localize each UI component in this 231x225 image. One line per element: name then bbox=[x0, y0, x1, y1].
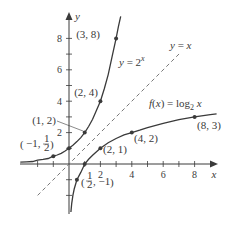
svg-text:, −1: , −1 bbox=[93, 175, 110, 187]
point-2-4-label: (2, 4) bbox=[74, 86, 98, 99]
point-3-8 bbox=[114, 36, 118, 40]
x-axis-arrow-icon bbox=[210, 161, 218, 168]
svg-text:(: ( bbox=[20, 138, 24, 151]
x-axis-label: x bbox=[211, 168, 217, 180]
y-tick-label-2: 2 bbox=[57, 127, 62, 138]
exponential-curve-label: y = 2x bbox=[118, 54, 145, 68]
identity-line-label: y = x bbox=[169, 39, 192, 51]
x-tick-label-6: 6 bbox=[161, 169, 166, 180]
point-2-1-label: (2, 1) bbox=[103, 143, 127, 156]
point-m1-half-label: ( −1, 1 2 ) bbox=[20, 132, 54, 153]
logarithm-points bbox=[75, 115, 197, 182]
svg-text:−1,: −1, bbox=[26, 137, 41, 149]
point-1-2 bbox=[83, 131, 87, 135]
x-tick-label-8: 8 bbox=[192, 169, 197, 180]
point-1-2-label: (1, 2) bbox=[32, 114, 56, 127]
x-tick-label-4: 4 bbox=[129, 169, 134, 180]
x-axis: 2 4 6 8 x bbox=[20, 161, 218, 181]
point-8-3-label: (8, 3) bbox=[197, 119, 221, 132]
svg-text:2: 2 bbox=[87, 178, 93, 190]
logarithm-curve-label: f(x) = log2 x bbox=[149, 97, 202, 112]
y-axis-label: y bbox=[74, 10, 80, 22]
function-graph: 2 4 6 8 x 2 4 6 8 bbox=[0, 0, 231, 225]
y-axis: 2 4 6 8 y bbox=[57, 10, 80, 214]
y-axis-arrow-icon bbox=[66, 12, 73, 20]
point-3-8-label: (3, 8) bbox=[76, 28, 100, 41]
svg-text:): ) bbox=[110, 176, 114, 189]
y-tick-label-6: 6 bbox=[57, 64, 62, 75]
svg-text:): ) bbox=[50, 138, 54, 151]
point-4-2-label: (4, 2) bbox=[134, 132, 158, 145]
point-half-m1 bbox=[75, 178, 79, 182]
point-m1-half bbox=[51, 154, 55, 158]
point-0-1 bbox=[67, 146, 71, 150]
point-1-0 bbox=[83, 162, 87, 166]
svg-text:(: ( bbox=[81, 176, 85, 189]
point-2-4 bbox=[98, 99, 102, 103]
y-tick-label-4: 4 bbox=[57, 96, 62, 107]
point-8-3 bbox=[193, 115, 197, 119]
svg-text:2: 2 bbox=[44, 141, 50, 153]
y-tick-label-8: 8 bbox=[57, 33, 62, 44]
point-2-1 bbox=[98, 146, 102, 150]
